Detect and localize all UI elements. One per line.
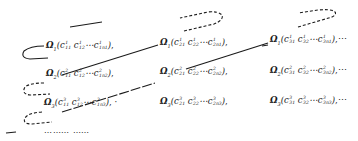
tuple-r2c2: Ω2(c221 c222⋯c22n2), <box>160 67 228 78</box>
curl-r1c3 <box>298 10 336 27</box>
loop-r1c1 <box>23 46 48 59</box>
tuple-r3c3: Ω3(c331 c332⋯c33n3),⋯ <box>270 96 347 107</box>
tuple-r2c1: Ω2(c211 c212⋯c21n2), <box>46 69 114 80</box>
dash-bottom-left <box>6 132 16 133</box>
tuple-r3c2: Ω3(c321 c322⋯c32n3), <box>160 97 228 108</box>
tuple-r3c1: Ω3(c311 c312⋯c31n3), · <box>44 98 117 109</box>
tuple-r1c1: Ω1(c111 c112⋯c11n1), <box>46 41 114 52</box>
omega-symbol: Ω <box>46 40 54 50</box>
tuple-r1c3: Ω1(c131 c132⋯c13n1),⋯ <box>270 35 347 46</box>
tuple-r1c2: Ω1(c121 c122⋯c12n1), <box>160 38 228 49</box>
continuation-dots: ⋯⋯⋯ ⋯⋯ <box>44 128 90 137</box>
curl-r1c2 <box>180 12 222 31</box>
loop-r3c1 <box>24 112 52 124</box>
tuple-r2c3: Ω2(c231 c232⋯c23n2),⋯ <box>270 66 347 77</box>
loop-r2c1 <box>24 83 50 95</box>
line-r1c1-top <box>70 22 102 27</box>
